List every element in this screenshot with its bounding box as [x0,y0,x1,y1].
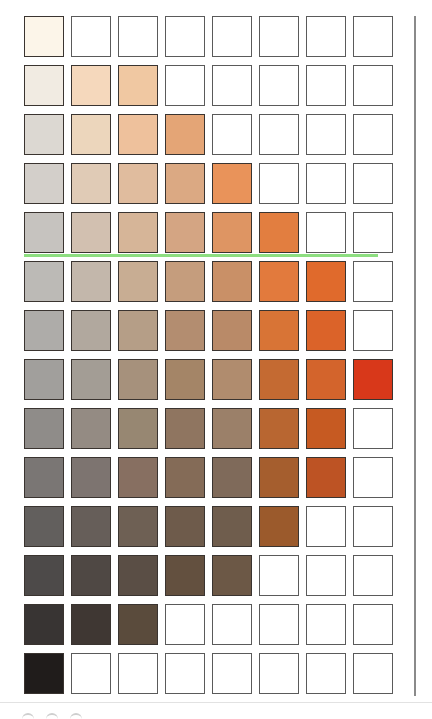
swatch-filled [259,359,299,400]
swatch-filled [165,261,205,302]
swatch-empty [259,555,299,596]
swatch-empty [306,114,346,155]
swatch-filled [165,163,205,204]
swatch-empty [353,457,393,498]
swatch-grid [0,0,432,719]
swatch-empty [259,65,299,106]
swatch-empty [259,604,299,645]
vertical-divider [414,16,416,696]
swatch-empty [353,212,393,253]
swatch-filled [118,261,158,302]
swatch-filled [24,506,64,547]
swatch-filled [165,555,205,596]
swatch-empty [212,65,252,106]
swatch-filled [71,604,111,645]
swatch-filled [24,408,64,449]
swatch-filled [212,163,252,204]
swatch-filled [165,359,205,400]
swatch-filled [259,212,299,253]
swatch-filled [118,506,158,547]
swatch-filled [24,653,64,694]
swatch-filled [24,359,64,400]
swatch-filled [118,457,158,498]
swatch-filled [71,555,111,596]
swatch-empty [353,163,393,204]
footer-marks [22,713,82,719]
swatch-filled [165,114,205,155]
swatch-empty [306,16,346,57]
swatch-filled [165,506,205,547]
swatch-filled [118,359,158,400]
swatch-empty [353,16,393,57]
swatch-empty [118,653,158,694]
swatch-empty [353,555,393,596]
swatch-empty [118,16,158,57]
swatch-empty [353,506,393,547]
swatch-empty [353,310,393,351]
swatch-filled [306,359,346,400]
swatch-filled [118,212,158,253]
swatch-empty [353,408,393,449]
swatch-empty [212,114,252,155]
swatch-filled [71,261,111,302]
swatch-filled [212,261,252,302]
swatch-empty [306,653,346,694]
swatch-filled [71,457,111,498]
swatch-filled [259,310,299,351]
swatch-filled [71,310,111,351]
swatch-filled [306,408,346,449]
swatch-filled [24,310,64,351]
swatch-empty [259,16,299,57]
swatch-filled [71,506,111,547]
swatch-empty [353,653,393,694]
swatch-filled [118,555,158,596]
swatch-empty [259,653,299,694]
footer-mark [46,713,58,719]
swatch-filled [306,457,346,498]
swatch-empty [165,16,205,57]
swatch-filled [165,310,205,351]
swatch-filled [165,457,205,498]
swatch-filled [259,408,299,449]
swatch-filled [118,604,158,645]
swatch-filled [24,212,64,253]
swatch-filled [118,163,158,204]
swatch-filled [259,261,299,302]
swatch-filled [24,65,64,106]
swatch-filled [212,555,252,596]
swatch-empty [71,653,111,694]
swatch-empty [306,604,346,645]
footer-mark [22,713,34,719]
swatch-empty [212,604,252,645]
swatch-empty [306,212,346,253]
swatch-filled [71,65,111,106]
swatch-filled [118,114,158,155]
swatch-filled [71,163,111,204]
swatch-filled [212,212,252,253]
swatch-filled [306,261,346,302]
swatch-empty [306,163,346,204]
swatch-filled [212,408,252,449]
swatch-filled [212,359,252,400]
footer-mark [70,713,82,719]
swatch-filled [24,163,64,204]
swatch-empty [353,604,393,645]
swatch-filled [24,604,64,645]
swatch-filled [118,310,158,351]
swatch-filled [71,359,111,400]
swatch-empty [306,555,346,596]
swatch-filled [212,457,252,498]
swatch-empty [353,114,393,155]
swatch-filled [24,114,64,155]
swatch-filled [118,408,158,449]
highlight-line [24,254,378,257]
swatch-filled [24,555,64,596]
swatch-empty [259,163,299,204]
swatch-filled [212,310,252,351]
swatch-filled [24,16,64,57]
swatch-filled [259,506,299,547]
swatch-empty [306,65,346,106]
swatch-filled [165,408,205,449]
swatch-filled [71,408,111,449]
swatch-empty [353,65,393,106]
